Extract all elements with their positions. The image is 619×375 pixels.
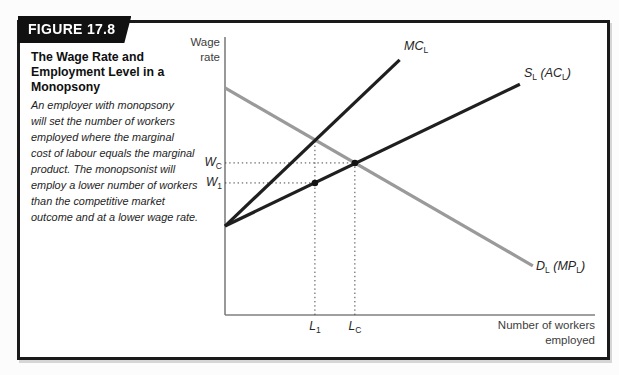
supply-curve-label: SL (ACL)	[524, 66, 571, 80]
mc-curve-label: MCL	[404, 39, 428, 53]
wage-monopsony-tick-label: W1	[186, 175, 222, 189]
curve-D_L	[225, 88, 533, 266]
employment-competitive-tick-label: LC	[342, 319, 368, 333]
wage-competitive-tick-label: WC	[186, 155, 222, 169]
figure-number-tag: FIGURE 17.8	[18, 16, 131, 43]
x-axis-label: Number of workers employed	[470, 318, 595, 348]
curve-MC_L	[225, 60, 400, 226]
curve-S_L	[225, 84, 520, 226]
point-monopsony	[312, 180, 319, 187]
employment-monopsony-tick-label: L1	[302, 319, 328, 333]
point-competitive	[352, 160, 359, 167]
demand-curve-label: DL (MPL)	[536, 259, 585, 273]
y-axis-label: Wage rate	[158, 35, 220, 65]
